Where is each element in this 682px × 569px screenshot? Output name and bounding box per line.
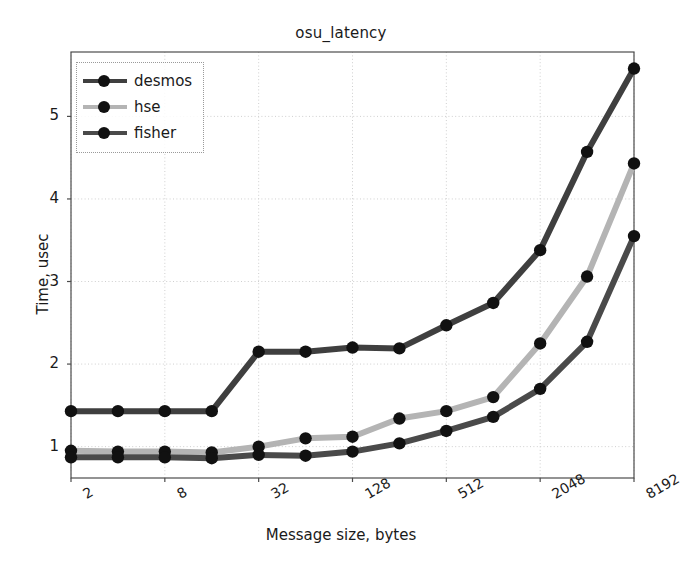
legend-swatch-fisher [83,126,127,140]
legend-swatch-desmos [83,74,127,88]
y-tick-label: 2 [29,354,59,372]
legend-marker-hse [98,101,110,113]
legend-swatch-hse [83,100,127,114]
legend-label-fisher: fisher [134,126,176,141]
y-tick-label: 1 [29,437,59,455]
legend-marker-desmos [98,75,110,87]
legend-marker-fisher [98,127,110,139]
legend-label-hse: hse [134,100,161,115]
legend-item-hse: hse [83,94,197,120]
legend-item-fisher: fisher [83,120,197,146]
axis-ticks [67,116,634,482]
legend-label-desmos: desmos [134,74,192,89]
x-axis-title: Message size, bytes [0,526,682,544]
chart-legend: desmos hse fisher [76,62,204,153]
y-axis-title: Time, usec [34,199,52,349]
y-tick-label: 5 [29,106,59,124]
legend-item-desmos: desmos [83,68,197,94]
chart-figure: osu_latency 12345 283212851220488192 Tim… [0,0,682,569]
